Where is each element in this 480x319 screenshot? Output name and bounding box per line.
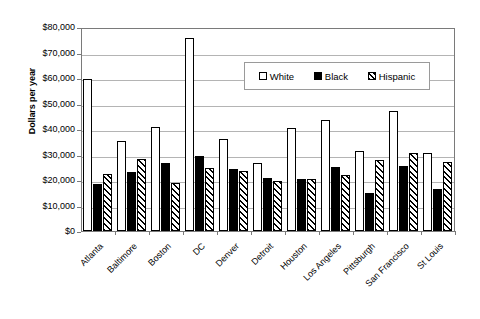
x-axis-label: Detroit (217, 241, 275, 299)
bar (321, 120, 330, 231)
x-tick-mark (217, 231, 218, 235)
bar (433, 189, 442, 231)
bar-group (286, 29, 320, 231)
y-tick-label: $10,000 (4, 202, 75, 211)
bar (83, 79, 92, 231)
black-square-icon (314, 72, 322, 80)
legend-item: White (259, 71, 294, 82)
x-axis-label: San Francisco (353, 241, 411, 299)
bar (307, 179, 316, 231)
legend: WhiteBlackHispanic (244, 62, 430, 90)
bar (171, 183, 180, 231)
bar (287, 128, 296, 231)
bar-group (422, 29, 456, 231)
x-axis-label: Boston (115, 241, 173, 299)
legend-label: White (270, 71, 294, 82)
bar (127, 172, 136, 231)
x-tick-mark (115, 231, 116, 235)
bar-group (252, 29, 286, 231)
bar-groups (82, 29, 454, 231)
x-tick-mark (183, 231, 184, 235)
bar (219, 139, 228, 231)
x-tick-mark (353, 231, 354, 235)
y-tick-label: $20,000 (4, 176, 75, 185)
legend-label: Black (325, 71, 348, 82)
legend-label: Hispanic (379, 71, 415, 82)
bar (273, 181, 282, 231)
bar-group (320, 29, 354, 231)
bar-group (116, 29, 150, 231)
y-axis-title: Dollars per year (27, 21, 37, 181)
y-tick-label: $80,000 (4, 23, 75, 32)
x-tick-mark (387, 231, 388, 235)
bar (195, 156, 204, 231)
y-tick-mark (77, 232, 81, 233)
x-tick-mark (421, 231, 422, 235)
bar (355, 151, 364, 231)
x-axis-label: Denver (183, 241, 241, 299)
white-square-icon (259, 72, 267, 80)
bar-group (388, 29, 422, 231)
y-tick-label: $50,000 (4, 100, 75, 109)
bar-group (354, 29, 388, 231)
bar (229, 169, 238, 231)
bar (93, 184, 102, 231)
bar-group (184, 29, 218, 231)
bar (117, 141, 126, 231)
bar (103, 174, 112, 231)
x-axis-label: Los Angeles (285, 241, 343, 299)
bar (239, 171, 248, 231)
bar (331, 167, 340, 231)
x-axis-label: Houston (251, 241, 309, 299)
bar (151, 127, 160, 231)
y-tick-label: $0 (4, 227, 75, 236)
x-axis-label: Pittsburgh (319, 241, 377, 299)
hatched-square-icon (368, 72, 376, 80)
bar (341, 175, 350, 231)
bar (365, 193, 374, 231)
x-tick-mark (455, 231, 456, 235)
bar (399, 166, 408, 231)
bar-chart: Dollars per year $0$10,000$20,000$30,000… (0, 0, 480, 319)
plot-area (81, 28, 455, 232)
x-tick-mark (319, 231, 320, 235)
bar-group (150, 29, 184, 231)
y-tick-label: $60,000 (4, 74, 75, 83)
bar (253, 163, 262, 231)
bar (263, 178, 272, 231)
bar (443, 162, 452, 231)
y-tick-label: $40,000 (4, 125, 75, 134)
x-tick-mark (251, 231, 252, 235)
x-axis-label: DC (149, 241, 207, 299)
x-axis-label: Baltimore (81, 241, 139, 299)
bar (297, 179, 306, 231)
legend-item: Black (314, 71, 348, 82)
bar (389, 111, 398, 231)
y-tick-label: $30,000 (4, 151, 75, 160)
bar (137, 159, 146, 231)
bar (161, 163, 170, 231)
bar (205, 168, 214, 231)
legend-item: Hispanic (368, 71, 415, 82)
x-axis-label: St Louis (387, 241, 445, 299)
bar (185, 38, 194, 231)
x-axis-label: Atlanta (47, 241, 105, 299)
bar-group (218, 29, 252, 231)
y-tick-label: $70,000 (4, 49, 75, 58)
bar (375, 160, 384, 231)
x-tick-mark (149, 231, 150, 235)
bar-group (82, 29, 116, 231)
x-tick-mark (285, 231, 286, 235)
bar (409, 153, 418, 231)
bar (423, 153, 432, 231)
